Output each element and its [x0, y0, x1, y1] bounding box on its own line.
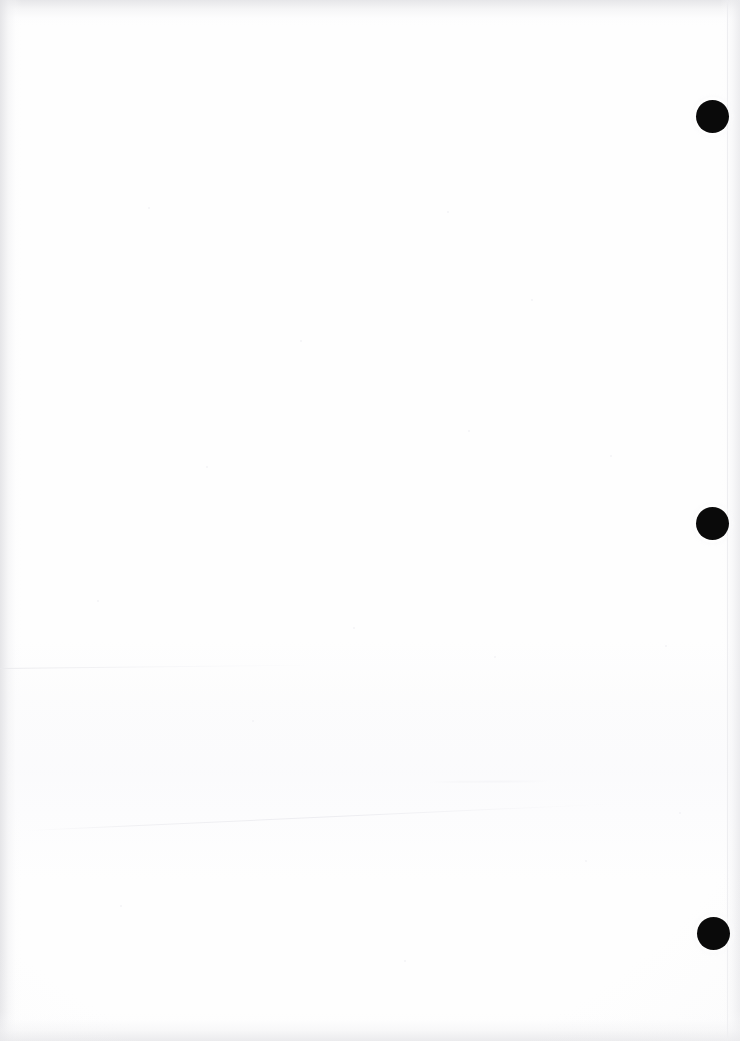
registration-mark-layer	[0, 0, 740, 1041]
registration-mark-top	[696, 100, 729, 133]
registration-mark-middle	[696, 507, 729, 540]
registration-mark-bottom	[697, 917, 730, 950]
scanned-page	[0, 0, 740, 1041]
